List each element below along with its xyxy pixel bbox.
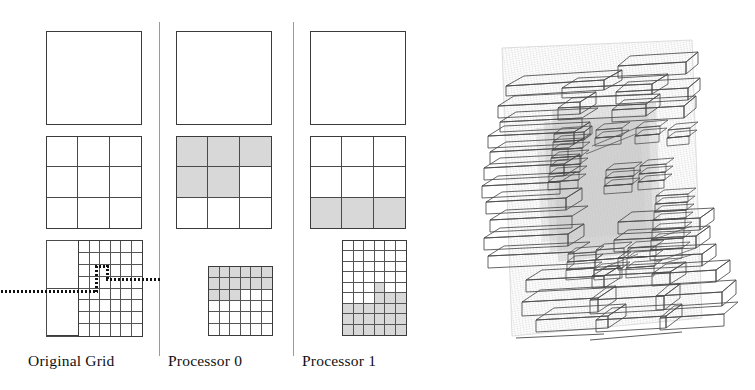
fine-cell	[79, 241, 90, 253]
grid-cell	[110, 137, 141, 167]
grid-cell	[78, 137, 109, 167]
fine-cell	[251, 290, 262, 301]
processor0-level1	[176, 136, 272, 229]
grid-cell	[342, 167, 373, 197]
fine-cell	[385, 262, 396, 272]
fine-cell	[111, 300, 122, 312]
fine-cell	[241, 324, 252, 335]
grid-cell	[208, 167, 239, 197]
grid-cell	[311, 137, 342, 167]
fine-cell	[220, 290, 231, 301]
fine-cell	[343, 314, 354, 324]
fine-cell	[262, 324, 273, 335]
fine-cell	[79, 312, 90, 324]
fine-cell	[209, 324, 220, 335]
grid-cell	[342, 137, 373, 167]
fine-cell	[132, 289, 143, 301]
grid-cell	[342, 198, 373, 228]
grid-cell	[47, 198, 78, 228]
fine-cell	[251, 278, 262, 289]
dot-segment-exit-horizontal	[106, 278, 161, 281]
grid-cell	[177, 137, 208, 167]
fine-cell	[396, 272, 407, 282]
fine-cell	[262, 278, 273, 289]
fine-cell	[364, 241, 375, 251]
fine-cell	[343, 251, 354, 261]
fine-cell	[132, 300, 143, 312]
grid-cell	[208, 137, 239, 167]
fine-cell	[375, 325, 386, 335]
fine-cell	[241, 278, 252, 289]
grid-cell	[240, 167, 271, 197]
grid-cell	[311, 198, 342, 228]
fine-cell	[354, 272, 365, 282]
grid-cell	[177, 167, 208, 197]
fine-cell	[385, 251, 396, 261]
fine-cell	[111, 265, 122, 277]
fine-cell	[343, 241, 354, 251]
fine-cell	[220, 312, 231, 323]
fine-cell	[220, 278, 231, 289]
fine-cell	[209, 267, 220, 278]
fine-cell	[111, 324, 122, 336]
fine-cell	[79, 324, 90, 336]
fine-cell	[209, 301, 220, 312]
fine-cell	[396, 314, 407, 324]
grid-cell	[240, 137, 271, 167]
original-grid-level1	[46, 136, 142, 229]
grid-cell	[240, 198, 271, 228]
grid-cell	[208, 198, 239, 228]
fine-cell	[79, 265, 90, 277]
grid-cell	[78, 198, 109, 228]
dot-segment-horizontal-main	[1, 290, 98, 293]
fine-cell	[79, 253, 90, 265]
fine-cell	[132, 312, 143, 324]
fine-cell	[343, 272, 354, 282]
fine-cell	[385, 304, 396, 314]
fine-cell	[385, 293, 396, 303]
fine-cell	[132, 241, 143, 253]
fine-cell	[111, 312, 122, 324]
fine-cell	[121, 312, 132, 324]
fine-cell	[251, 267, 262, 278]
fine-cell	[220, 267, 231, 278]
fine-cell	[121, 253, 132, 265]
fine-cell	[354, 314, 365, 324]
fine-cell	[132, 265, 143, 277]
fine-cell	[364, 251, 375, 261]
fine-cell	[396, 304, 407, 314]
grid-cell	[78, 167, 109, 197]
original-grid-level0	[46, 31, 142, 125]
processor1-level1	[310, 136, 406, 229]
fine-cell	[100, 241, 111, 253]
fine-cell	[90, 300, 101, 312]
fine-cell	[230, 301, 241, 312]
fine-cell	[375, 251, 386, 261]
fine-cell	[396, 262, 407, 272]
fine-cell	[209, 290, 220, 301]
processor0-level2	[208, 266, 273, 336]
fine-cell	[121, 324, 132, 336]
fine-cell	[241, 312, 252, 323]
fine-cell	[209, 312, 220, 323]
fine-cell	[230, 290, 241, 301]
caption-original-grid: Original Grid	[28, 352, 115, 370]
fine-cell	[354, 251, 365, 261]
fine-cell	[396, 251, 407, 261]
fine-cell	[375, 241, 386, 251]
fine-cell	[251, 324, 262, 335]
fine-cell	[111, 253, 122, 265]
fine-cell	[385, 241, 396, 251]
fine-cell	[220, 301, 231, 312]
fine-cell	[385, 272, 396, 282]
grid-cell	[374, 198, 405, 228]
fine-cell	[343, 262, 354, 272]
fine-cell	[262, 312, 273, 323]
fine-cell	[385, 314, 396, 324]
fine-cell	[121, 289, 132, 301]
fine-cell	[230, 278, 241, 289]
fine-cell	[375, 283, 386, 293]
fine-cell	[121, 241, 132, 253]
fine-cell	[262, 301, 273, 312]
fine-cell	[100, 300, 111, 312]
